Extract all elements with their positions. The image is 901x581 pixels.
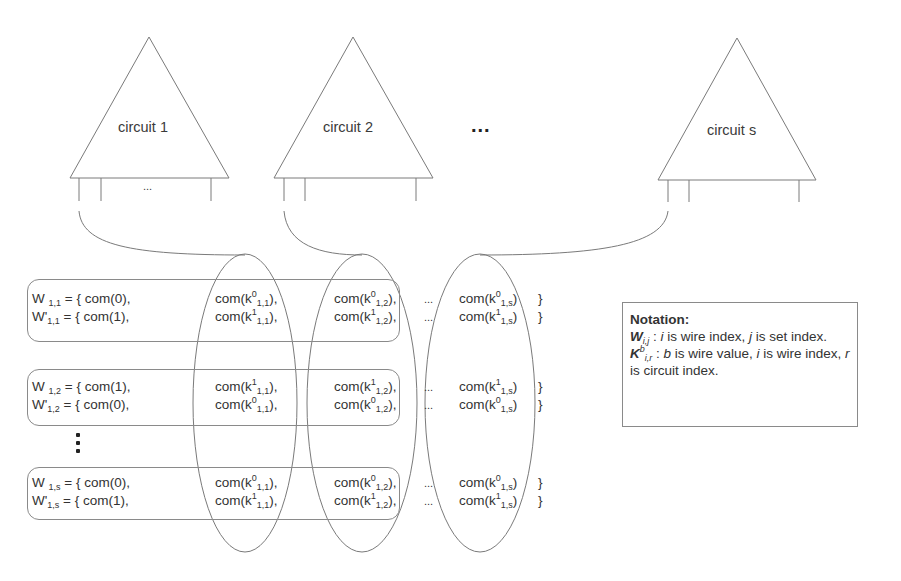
commitment-cell: com(k01,1), [215,397,278,412]
notation-k-definition: Kbi,r : b is wire value, i is wire index… [630,345,850,379]
row-close-brace: } [538,475,543,490]
row-ellipsis: ... [424,310,433,325]
row-close-brace: } [538,397,543,412]
row-close-brace: } [538,379,543,394]
commitment-cell: com(k01,2), [334,397,397,412]
commitment-cell: com(k01,1), [215,291,278,306]
set-s-row-1: W 1,s = { com(0), com(k01,1), com(k01,2)… [32,475,402,491]
circuit-1-wire-ellipsis: ... [143,180,152,192]
commitment-cell: com(k01,s) [459,291,517,306]
notation-title: Notation: [630,311,850,328]
circuit-2-triangle [274,37,433,178]
notation-box: Notation: Wi,j : i is wire index, j is s… [622,302,858,427]
commitment-cell: com(k01,s) [459,475,517,490]
circuit-s-triangle [658,38,816,180]
wire-curve-circuit-2 [284,211,362,255]
circuit-2-label: circuit 2 [323,119,373,135]
set-1-row-2: W'1,1 = { com(1), com(k11,1), com(k11,2)… [32,309,402,325]
row-ellipsis: ... [424,398,433,413]
row-close-brace: } [538,291,543,306]
set-s-row-2: W'1,s = { com(1), com(k11,1), com(k11,2)… [32,493,402,509]
commitment-cell: com(k01,s) [459,397,517,412]
notation-w-definition: Wi,j : i is wire index, j is set index. [630,328,850,345]
commitment-cell: com(k11,1), [215,493,278,508]
row-ellipsis: ... [424,380,433,395]
row-ellipsis: ... [424,494,433,509]
set-2-row-2: W'1,2 = { com(0), com(k01,1), com(k01,2)… [32,397,402,413]
row-ellipsis: ... [424,292,433,307]
commitment-cell: com(k01,1), [215,475,278,490]
commitment-cell: com(k11,2), [334,379,397,394]
row-close-brace: } [538,309,543,324]
commitment-cell: com(k11,s) [459,379,517,394]
commitment-cell: com(k11,s) [459,309,517,324]
lhs: W'1,2 = { com(0), [32,397,129,412]
wire-curve-circuit-s [480,211,668,255]
commitment-cell: com(k11,1), [215,379,278,394]
between-circuits-ellipsis: ... [471,114,491,137]
set-2-row-1: W 1,2 = { com(1), com(k11,1), com(k11,2)… [32,379,402,395]
circuit-1-triangle [70,37,229,178]
set-1-row-1: W 1,1 = { com(0), com(k01,1), com(k01,2)… [32,291,402,307]
lhs: W'1,s = { com(1), [32,493,129,508]
vertical-ellipsis [76,433,82,457]
lhs: W 1,2 = { com(1), [32,379,130,394]
lhs: W 1,1 = { com(0), [32,291,130,306]
circuit-s-label: circuit s [707,122,756,138]
commitment-cell: com(k11,1), [215,309,278,324]
wire-curve-circuit-1 [79,211,245,255]
commitment-cell: com(k11,s) [459,493,517,508]
commitment-cell: com(k11,2), [334,493,397,508]
commitment-cell: com(k01,2), [334,291,397,306]
commitment-cell: com(k11,2), [334,309,397,324]
circuit-1-label: circuit 1 [118,119,168,135]
lhs: W'1,1 = { com(1), [32,309,129,324]
lhs: W 1,s = { com(0), [32,475,130,490]
row-ellipsis: ... [424,476,433,491]
row-close-brace: } [538,493,543,508]
commitment-cell: com(k01,2), [334,475,397,490]
